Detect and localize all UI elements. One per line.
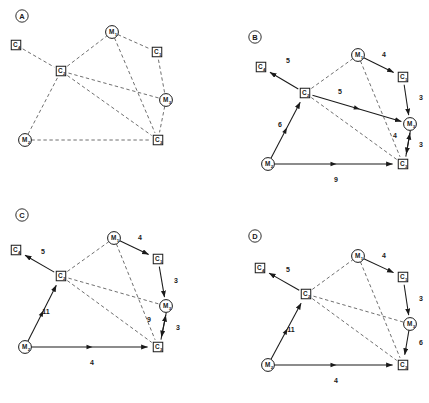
panel-letter-text: D	[252, 232, 258, 241]
edge-direction-marker	[87, 345, 93, 349]
edge-weight-label: 4	[393, 132, 397, 139]
node-A-C3[interactable]: C3	[153, 135, 163, 145]
panel-letter-D: D	[249, 230, 261, 242]
node-B-C1[interactable]: C1	[398, 72, 408, 82]
edge-C2-to-C4	[269, 273, 299, 290]
edge-M1-to-C3	[360, 262, 400, 358]
edge-weight-label: 4	[382, 51, 386, 58]
edge-weight-label: 5	[41, 248, 45, 255]
edge-C1-to-M3	[159, 267, 164, 297]
node-B-C3[interactable]: C3	[398, 159, 408, 169]
edge-C2-to-M1	[312, 260, 353, 290]
nodes-layer: C4C2M1C1M3C3M2C4C2M1C1M3C3M2C4C2M1C1M3C3…	[11, 26, 416, 372]
node-B-C4[interactable]: C4	[256, 62, 266, 72]
node-C-C1[interactable]: C1	[153, 254, 163, 264]
node-C-M1[interactable]: M1	[108, 232, 121, 245]
edge-weight-label: 11	[287, 326, 295, 333]
node-A-C2[interactable]: C2	[56, 66, 66, 76]
edge-M1-to-C3	[116, 244, 155, 340]
edge-M1-to-C1	[364, 259, 394, 273]
labels-layer: AB54354369C54393114D5436114	[16, 10, 423, 384]
node-C-C2[interactable]: C2	[56, 271, 66, 281]
node-A-M1[interactable]: M1	[106, 26, 119, 39]
edge-C2-to-C4	[25, 255, 54, 272]
edge-weight-label: 4	[90, 359, 94, 366]
edge-weight-label: 3	[419, 295, 423, 302]
edge-weight-label: 5	[286, 266, 290, 273]
panel-letter-B: B	[249, 31, 261, 43]
edge-weight-label: 11	[42, 308, 50, 315]
edge-M3-to-C3	[405, 330, 409, 354]
node-A-M3[interactable]: M3	[160, 94, 173, 107]
edge-weight-label: 9	[147, 316, 151, 323]
node-B-M1[interactable]: M1	[352, 49, 365, 62]
edge-direction-marker	[331, 162, 337, 166]
node-B-M3[interactable]: M3	[404, 118, 417, 131]
edge-weight-label: 5	[286, 57, 290, 64]
edge-weight-label: 3	[174, 277, 178, 284]
node-D-M1[interactable]: M1	[352, 250, 365, 263]
panel-letter-A: A	[16, 10, 28, 22]
edge-M1-to-C3	[115, 38, 155, 133]
edge-direction-marker	[282, 127, 289, 134]
edges-layer	[23, 35, 411, 368]
node-D-C4[interactable]: C4	[255, 263, 265, 273]
node-D-M2[interactable]: M2	[262, 359, 275, 372]
edge-C1-to-M3	[404, 285, 409, 315]
edge-C2-to-M3	[69, 73, 160, 98]
edge-C4-to-C2	[23, 49, 55, 67]
node-C-M3[interactable]: M3	[160, 300, 173, 313]
panel-letter-text: B	[252, 33, 258, 42]
edge-C2-to-M2	[28, 78, 57, 134]
node-C-M2[interactable]: M2	[19, 341, 32, 354]
panel-letter-text: C	[19, 211, 25, 220]
node-A-C4[interactable]: C4	[11, 40, 21, 50]
node-B-M2[interactable]: M2	[262, 158, 275, 171]
figure-container: C4C2M1C1M3C3M2C4C2M1C1M3C3M2C4C2M1C1M3C3…	[0, 0, 429, 403]
node-D-M3[interactable]: M3	[404, 318, 417, 331]
node-B-C2[interactable]: C2	[300, 88, 310, 98]
node-D-C1[interactable]: C1	[398, 272, 408, 282]
edge-weight-label: 3	[419, 141, 423, 148]
edge-C2-to-C3	[311, 98, 396, 160]
edge-C2-to-M1	[311, 59, 352, 89]
network-diagram-svg: C4C2M1C1M3C3M2C4C2M1C1M3C3M2C4C2M1C1M3C3…	[0, 0, 429, 403]
edge-C2-to-M1	[67, 242, 108, 272]
edge-M1-to-C1	[364, 58, 394, 73]
edge-weight-label: 3	[419, 94, 423, 101]
edge-C3-to-M3	[161, 315, 166, 340]
edge-C2-to-C4	[270, 72, 298, 89]
node-A-C1[interactable]: C1	[152, 47, 162, 57]
edge-C1-to-M3	[158, 60, 164, 94]
edge-weight-label: 3	[176, 324, 180, 331]
edge-weight-label: 5	[338, 88, 342, 95]
edge-M1-to-C3	[360, 61, 400, 157]
edge-C2-to-M1	[67, 36, 107, 66]
edge-direction-marker	[331, 363, 337, 367]
edge-C1-to-M3	[404, 85, 409, 115]
node-C-C3[interactable]: C3	[153, 342, 163, 352]
edge-weight-label: 6	[278, 121, 282, 128]
edge-M3-to-C3	[160, 106, 165, 132]
panel-letter-C: C	[16, 209, 28, 221]
node-D-C2[interactable]: C2	[301, 289, 311, 299]
node-D-C3[interactable]: C3	[398, 360, 408, 370]
node-C-C4[interactable]: C4	[11, 245, 21, 255]
edge-weight-label: 6	[419, 339, 423, 346]
edge-weight-label: 4	[382, 252, 386, 259]
edge-weight-label: 4	[138, 234, 142, 241]
panel-letter-text: A	[19, 12, 25, 21]
edge-C3-to-M3	[406, 133, 410, 156]
edge-M1-to-C1	[118, 35, 150, 49]
edge-weight-label: 9	[334, 176, 338, 183]
edge-direction-marker	[353, 105, 360, 111]
node-A-M2[interactable]: M2	[19, 134, 32, 147]
edge-weight-label: 4	[334, 377, 338, 384]
edge-M1-to-C1	[120, 241, 149, 255]
